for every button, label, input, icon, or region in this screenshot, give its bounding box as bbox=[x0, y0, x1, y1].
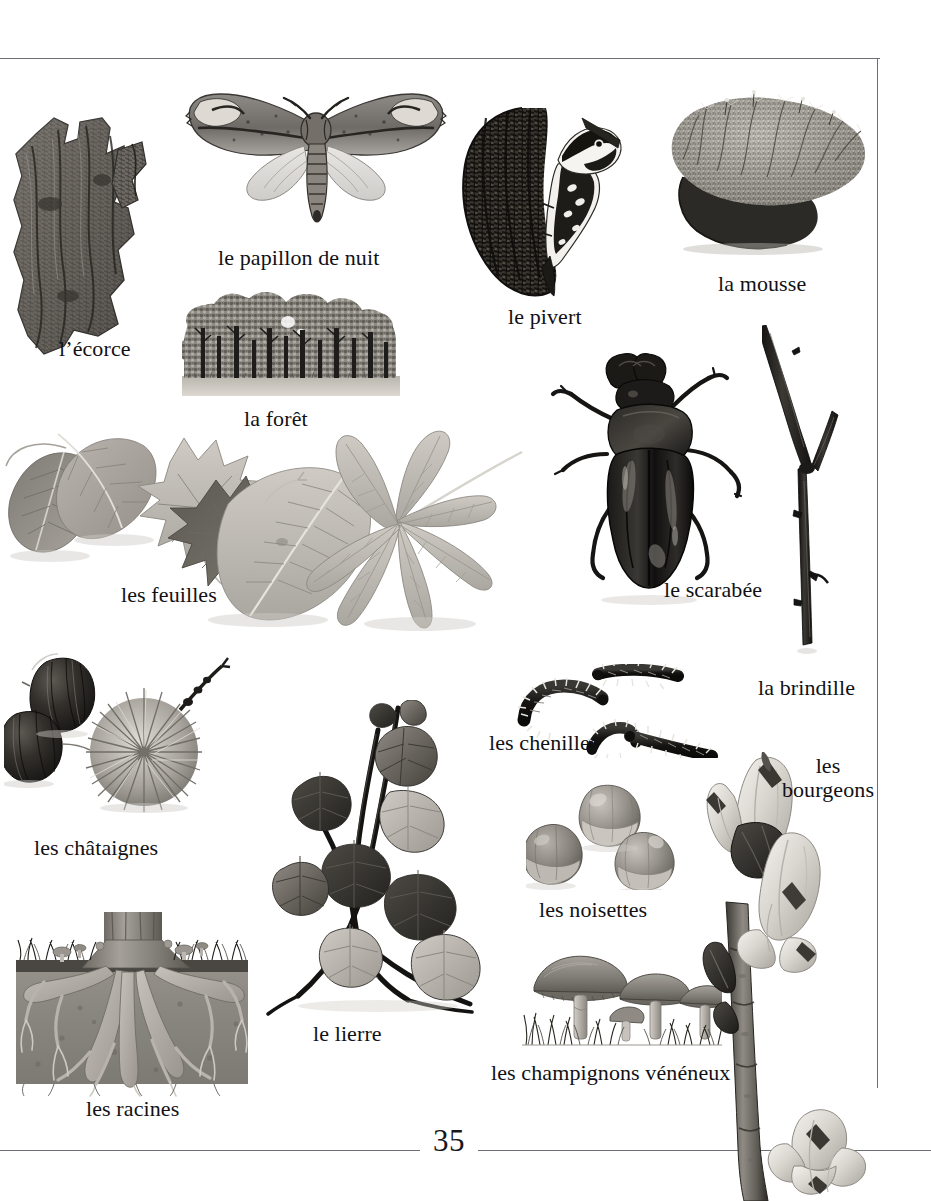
label-hazelnuts: les noisettes bbox=[539, 898, 647, 923]
buds-photo bbox=[676, 752, 876, 1201]
label-moss: la mousse bbox=[718, 272, 806, 297]
woodpecker-photo bbox=[462, 104, 630, 300]
moss-photo bbox=[657, 85, 873, 255]
label-leaves: les feuilles bbox=[121, 583, 217, 608]
label-woodpecker: le pivert bbox=[508, 305, 582, 330]
page-frame-top-rule bbox=[0, 58, 880, 59]
stag-beetle-photo bbox=[545, 350, 780, 610]
chestnuts-photo bbox=[4, 648, 250, 831]
leaves-photo bbox=[2, 404, 532, 669]
label-beetle: le scarabée bbox=[664, 578, 762, 603]
label-buds-line1: les bbox=[816, 753, 841, 778]
page-frame-bottom-rule-left bbox=[0, 1150, 420, 1151]
label-moth: le papillon de nuit bbox=[218, 246, 379, 271]
hazelnuts-photo bbox=[526, 780, 681, 890]
label-roots: les racines bbox=[86, 1097, 179, 1122]
page-number: 35 bbox=[420, 1123, 478, 1159]
moth-photo bbox=[178, 82, 454, 237]
twig-photo bbox=[762, 325, 852, 660]
label-buds: lesbourgeons bbox=[776, 754, 880, 802]
label-twig: la brindille bbox=[758, 676, 855, 701]
label-chestnuts: les châtaignes bbox=[34, 836, 158, 861]
ivy-photo bbox=[258, 700, 513, 1020]
label-bark: l’écorce bbox=[59, 337, 131, 362]
label-ivy: le lierre bbox=[313, 1022, 382, 1047]
forest-illustration bbox=[182, 284, 400, 396]
tree-roots-illustration bbox=[10, 912, 258, 1097]
tree-bark-photo bbox=[6, 84, 171, 379]
label-buds-line2: bourgeons bbox=[782, 777, 874, 802]
page-frame-right-rule bbox=[877, 58, 878, 1088]
book-page: 35 bbox=[0, 0, 931, 1201]
